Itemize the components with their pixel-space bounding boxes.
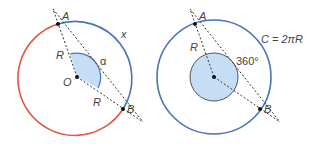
- label-a: A: [198, 10, 206, 22]
- label-360: 360°: [236, 55, 259, 67]
- center-dot: [212, 75, 216, 79]
- label-b: B: [127, 103, 134, 115]
- point-a-dot: [56, 22, 60, 26]
- center-dot: [75, 75, 79, 79]
- label-b: B: [264, 103, 271, 115]
- label-radius-1: R: [56, 49, 64, 61]
- circle-diagrams: A B O R R x α A B R C = 2πR 360°: [0, 0, 315, 144]
- label-circumference: C = 2πR: [261, 33, 303, 45]
- point-b-dot: [121, 107, 125, 111]
- point-a-dot: [193, 22, 197, 26]
- left-figure: A B O R R x α: [18, 9, 143, 135]
- point-b-dot: [258, 107, 262, 111]
- label-arc-x: x: [120, 28, 127, 40]
- label-alpha: α: [100, 55, 107, 67]
- label-radius-2: R: [93, 96, 101, 108]
- label-a: A: [61, 10, 69, 22]
- right-figure: A B R C = 2πR 360°: [157, 9, 303, 134]
- label-radius: R: [190, 41, 198, 53]
- radius-line-ob: [77, 77, 143, 122]
- angle-sector: [70, 53, 101, 88]
- label-center-o: O: [63, 76, 72, 88]
